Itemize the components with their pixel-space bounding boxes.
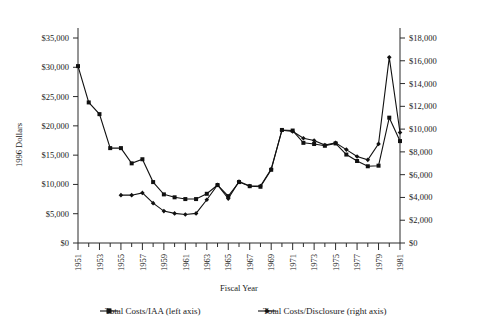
data-point	[387, 116, 391, 120]
chart-legend: Total Costs/IAA (left axis)Total Costs/D…	[100, 306, 387, 316]
x-axis-group: 1951195319551957195919611963196519671969…	[73, 243, 405, 271]
x-tick-label: 1977	[352, 254, 362, 271]
right-tick-label: $16,000	[409, 56, 437, 66]
data-point	[398, 139, 402, 143]
left-tick-label: $10,000	[41, 179, 69, 189]
data-point	[398, 130, 403, 135]
dual-axis-line-chart: $0$5,000$10,000$15,000$20,000$25,000$30,…	[0, 0, 498, 325]
left-tick-label: $20,000	[41, 121, 69, 131]
data-point	[194, 197, 198, 201]
left-tick-label: $30,000	[41, 62, 69, 72]
right-tick-label: $0	[409, 238, 418, 248]
right-tick-label: $10,000	[409, 124, 437, 134]
right-axis-group: $0$2,000$4,000$6,000$8,000$10,000$12,000…	[400, 28, 437, 248]
data-point	[377, 164, 381, 168]
x-tick-label: 1981	[395, 254, 405, 271]
x-tick-label: 1973	[309, 254, 319, 271]
data-point	[97, 112, 101, 116]
x-tick-label: 1963	[202, 254, 212, 271]
x-tick-label: 1975	[331, 254, 341, 271]
data-point	[119, 193, 124, 198]
chart-figure: $0$5,000$10,000$15,000$20,000$25,000$30,…	[0, 0, 498, 325]
left-tick-label: $35,000	[41, 33, 69, 43]
x-tick-label: 1969	[266, 254, 276, 271]
legend-item-2[interactable]: Total Costs/Disclosure (right axis)	[258, 306, 387, 316]
legend-label: Total Costs/Disclosure (right axis)	[263, 306, 387, 316]
data-point	[344, 153, 348, 157]
data-point	[76, 64, 80, 68]
left-tick-label: $5,000	[46, 209, 69, 219]
data-point	[172, 211, 177, 216]
x-tick-label: 1955	[116, 254, 126, 271]
left-tick-label: $25,000	[41, 92, 69, 102]
data-point	[130, 161, 134, 165]
x-tick-label: 1951	[73, 254, 83, 271]
x-tick-label: 1961	[181, 254, 191, 271]
left-axis-tick-labels: $0$5,000$10,000$15,000$20,000$25,000$30,…	[41, 33, 69, 248]
data-point	[173, 195, 177, 199]
x-tick-label: 1967	[245, 254, 255, 271]
left-tick-label: $0	[61, 238, 70, 248]
data-point	[387, 55, 392, 60]
left-axis-ticks	[73, 38, 78, 243]
x-tick-label: 1957	[138, 254, 148, 271]
right-tick-label: $4,000	[409, 192, 432, 202]
data-point	[108, 146, 112, 150]
left-axis-group: $0$5,000$10,000$15,000$20,000$25,000$30,…	[41, 28, 78, 248]
data-point	[87, 100, 91, 104]
right-tick-label: $12,000	[409, 101, 437, 111]
data-point	[301, 141, 305, 145]
right-axis-tick-labels: $0$2,000$4,000$6,000$8,000$10,000$12,000…	[409, 33, 437, 248]
data-point	[129, 193, 134, 198]
series-line	[121, 57, 400, 214]
x-axis-ticks	[78, 243, 400, 250]
legend-label: Total Costs/IAA (left axis)	[105, 306, 201, 316]
x-axis-tick-labels: 1951195319551957195919611963196519671969…	[73, 254, 405, 271]
series-2	[119, 55, 403, 217]
data-point	[151, 180, 155, 184]
x-axis-title: Fiscal Year	[220, 283, 258, 293]
right-tick-label: $18,000	[409, 33, 437, 43]
data-point	[355, 159, 359, 163]
data-point	[140, 157, 144, 161]
x-tick-label: 1959	[159, 254, 169, 271]
x-tick-label: 1971	[288, 254, 298, 271]
data-point	[366, 164, 370, 168]
data-point	[183, 212, 188, 217]
data-point	[162, 192, 166, 196]
series-layer	[76, 55, 402, 217]
x-tick-label: 1953	[95, 254, 105, 271]
data-point	[205, 192, 209, 196]
right-tick-label: $14,000	[409, 79, 437, 89]
series-line	[78, 66, 400, 199]
left-tick-label: $15,000	[41, 150, 69, 160]
right-tick-label: $6,000	[409, 170, 432, 180]
y-axis-title: 1996 Dollars	[14, 123, 24, 167]
right-tick-label: $2,000	[409, 215, 432, 225]
data-point	[183, 197, 187, 201]
data-point	[119, 146, 123, 150]
x-tick-label: 1979	[374, 254, 384, 271]
legend-item-1[interactable]: Total Costs/IAA (left axis)	[100, 306, 201, 316]
x-tick-label: 1965	[223, 254, 233, 271]
right-tick-label: $8,000	[409, 147, 432, 157]
